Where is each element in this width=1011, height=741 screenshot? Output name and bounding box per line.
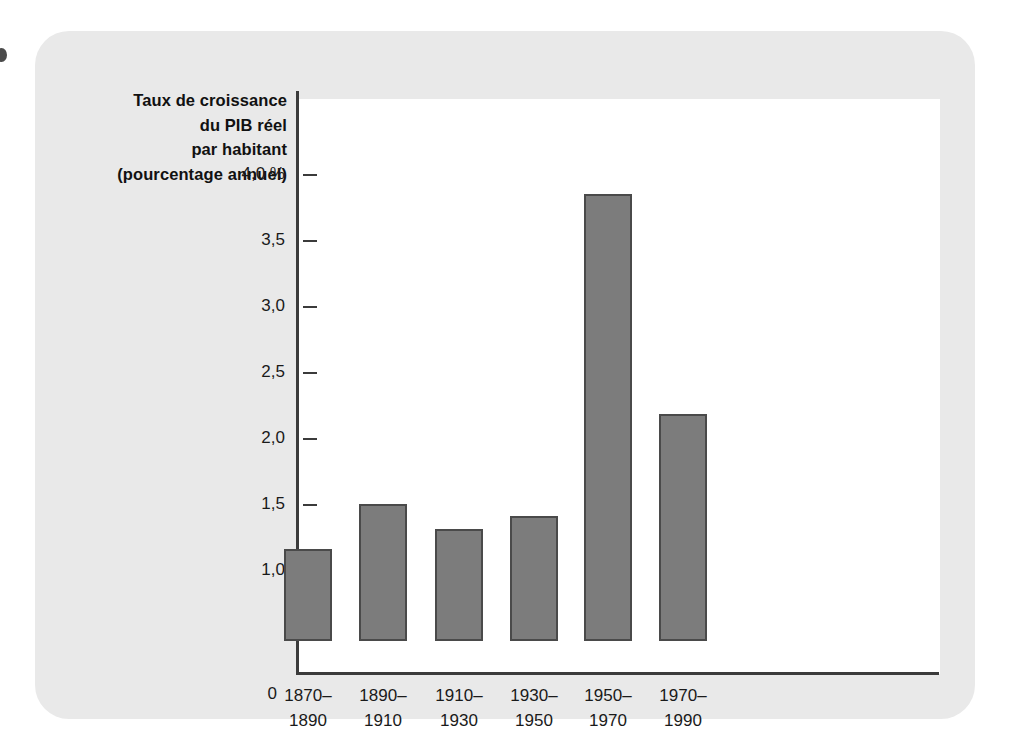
y-tick-label: 1,5 — [115, 493, 285, 515]
axis-title-line-1: Taux de croissance — [55, 88, 287, 113]
figure-card: Taux de croissance du PIB réel par habit… — [35, 31, 975, 719]
bar — [584, 194, 632, 641]
axis-title-line-2: du PIB réel — [55, 113, 287, 138]
y-tick-mark — [303, 240, 317, 242]
y-tick-label: 2,5 — [115, 361, 285, 383]
y-tick-label: 4,0 % — [115, 163, 285, 185]
x-axis-line — [296, 672, 939, 675]
y-tick-label: 1,0 — [115, 559, 285, 581]
bar — [510, 516, 558, 641]
bar — [284, 549, 332, 641]
y-tick-mark — [303, 438, 317, 440]
bar — [359, 504, 407, 641]
x-tick-label-line-2: 1990 — [628, 708, 738, 733]
bar — [435, 529, 483, 641]
x-tick-label-line-1: 1970– — [628, 683, 738, 708]
y-tick-label: 3,5 — [115, 229, 285, 251]
y-tick-label: 2,0 — [115, 427, 285, 449]
page-edge-artifact — [0, 48, 7, 62]
y-tick-label: 3,0 — [115, 295, 285, 317]
y-tick-mark — [303, 504, 317, 506]
y-tick-mark — [303, 306, 317, 308]
y-tick-mark — [303, 174, 317, 176]
y-tick-mark — [303, 372, 317, 374]
bar — [659, 414, 707, 641]
x-tick-label: 1970–1990 — [628, 683, 738, 733]
axis-title-line-3: par habitant — [55, 137, 287, 162]
